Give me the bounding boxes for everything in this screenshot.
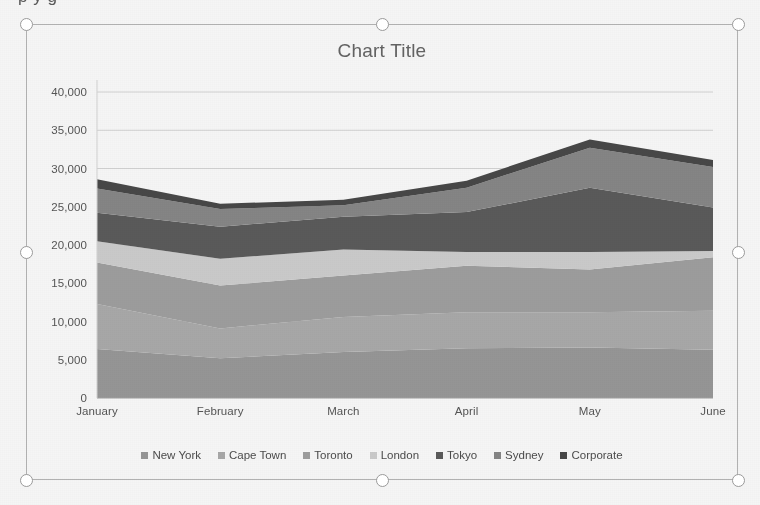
selection-handle-middle-right[interactable] bbox=[732, 246, 745, 259]
legend-item-toronto[interactable]: Toronto bbox=[303, 449, 352, 461]
selection-handle-top-right[interactable] bbox=[732, 18, 745, 31]
y-tick-label: 10,000 bbox=[29, 316, 87, 328]
plot-area[interactable]: 05,00010,00015,00020,00025,00030,00035,0… bbox=[27, 25, 737, 479]
legend-item-tokyo[interactable]: Tokyo bbox=[436, 449, 477, 461]
legend-label: Corporate bbox=[571, 449, 622, 461]
legend-swatch-icon bbox=[303, 452, 310, 459]
legend-swatch-icon bbox=[494, 452, 501, 459]
legend-swatch-icon bbox=[436, 452, 443, 459]
y-tick-label: 0 bbox=[29, 392, 87, 404]
legend-label: Cape Town bbox=[229, 449, 286, 461]
y-tick-label: 25,000 bbox=[29, 201, 87, 213]
chart-legend[interactable]: New YorkCape TownTorontoLondonTokyoSydne… bbox=[27, 449, 737, 461]
selection-handle-bottom-left[interactable] bbox=[20, 474, 33, 487]
selection-handle-top-left[interactable] bbox=[20, 18, 33, 31]
legend-item-cape-town[interactable]: Cape Town bbox=[218, 449, 286, 461]
legend-item-new-york[interactable]: New York bbox=[141, 449, 201, 461]
x-tick-label: May bbox=[545, 405, 635, 417]
selection-handle-middle-left[interactable] bbox=[20, 246, 33, 259]
y-tick-label: 35,000 bbox=[29, 124, 87, 136]
legend-label: Tokyo bbox=[447, 449, 477, 461]
legend-label: Sydney bbox=[505, 449, 543, 461]
x-tick-label: January bbox=[52, 405, 142, 417]
x-tick-label: April bbox=[422, 405, 512, 417]
cutoff-text-above: p y g bbox=[18, 0, 57, 7]
legend-label: Toronto bbox=[314, 449, 352, 461]
legend-label: London bbox=[381, 449, 419, 461]
x-tick-label: March bbox=[298, 405, 388, 417]
legend-swatch-icon bbox=[560, 452, 567, 459]
legend-item-sydney[interactable]: Sydney bbox=[494, 449, 543, 461]
legend-label: New York bbox=[152, 449, 201, 461]
chart-object[interactable]: Chart Title 05,00010,00015,00020,00025,0… bbox=[27, 25, 737, 479]
chart-screenshot-canvas: p y g Chart Title 05,00010,00015,00020,0… bbox=[0, 0, 760, 505]
legend-swatch-icon bbox=[370, 452, 377, 459]
y-tick-label: 30,000 bbox=[29, 163, 87, 175]
legend-swatch-icon bbox=[218, 452, 225, 459]
x-tick-label: February bbox=[175, 405, 265, 417]
y-tick-label: 15,000 bbox=[29, 277, 87, 289]
selection-handle-bottom-center[interactable] bbox=[376, 474, 389, 487]
y-tick-label: 20,000 bbox=[29, 239, 87, 251]
selection-handle-bottom-right[interactable] bbox=[732, 474, 745, 487]
y-tick-label: 40,000 bbox=[29, 86, 87, 98]
legend-swatch-icon bbox=[141, 452, 148, 459]
y-tick-label: 5,000 bbox=[29, 354, 87, 366]
x-tick-label: June bbox=[668, 405, 758, 417]
selection-handle-top-center[interactable] bbox=[376, 18, 389, 31]
legend-item-corporate[interactable]: Corporate bbox=[560, 449, 622, 461]
legend-item-london[interactable]: London bbox=[370, 449, 419, 461]
